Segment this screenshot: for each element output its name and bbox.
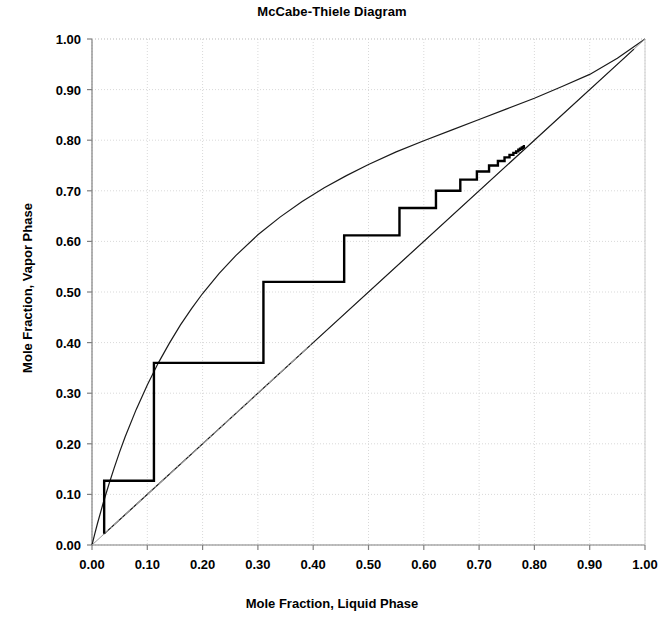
x-tick-label: 0.60 <box>411 557 436 572</box>
x-tick-label: 0.20 <box>190 557 215 572</box>
x-tick-label: 0.00 <box>79 557 104 572</box>
y-axis-title: Mole Fraction, Vapor Phase <box>20 138 35 438</box>
x-tick-label: 0.80 <box>522 557 547 572</box>
y-tick-label: 1.00 <box>56 32 81 47</box>
plot-canvas: 0.000.100.200.300.400.500.600.700.800.90… <box>0 0 664 623</box>
x-tick-label: 0.50 <box>356 557 381 572</box>
series-operating-line-rectifying <box>313 49 634 342</box>
mccabe-thiele-chart: McCabe-Thiele Diagram 0.000.100.200.300.… <box>0 0 664 623</box>
y-tick-label: 0.70 <box>56 184 81 199</box>
y-tick-label: 0.20 <box>56 437 81 452</box>
x-tick-label: 0.90 <box>577 557 602 572</box>
y-tick-label: 0.10 <box>56 487 81 502</box>
x-tick-label: 0.70 <box>466 557 491 572</box>
tick-labels: 0.000.100.200.300.400.500.600.700.800.90… <box>56 32 658 572</box>
x-tick-label: 0.10 <box>135 557 160 572</box>
y-tick-label: 0.30 <box>56 386 81 401</box>
y-tick-label: 0.50 <box>56 285 81 300</box>
y-tick-label: 0.60 <box>56 234 81 249</box>
x-tick-label: 1.00 <box>632 557 657 572</box>
x-axis-title: Mole Fraction, Liquid Phase <box>0 596 664 611</box>
y-tick-label: 0.80 <box>56 133 81 148</box>
x-tick-label: 0.40 <box>301 557 326 572</box>
x-tick-label: 0.30 <box>245 557 270 572</box>
y-tick-label: 0.40 <box>56 336 81 351</box>
y-tick-label: 0.00 <box>56 538 81 553</box>
y-tick-label: 0.90 <box>56 83 81 98</box>
